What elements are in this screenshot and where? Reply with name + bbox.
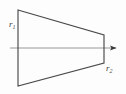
radius-label-2-base: r2 xyxy=(106,63,113,74)
radius-label-2-subscript: 2 xyxy=(110,68,113,74)
radius-label-1-base: r1 xyxy=(9,19,16,30)
frustum-diagram: r1 r2 xyxy=(0,0,126,94)
radius-label-1-subscript: 1 xyxy=(13,24,16,30)
diagram-canvas: r1 r2 xyxy=(0,0,126,94)
